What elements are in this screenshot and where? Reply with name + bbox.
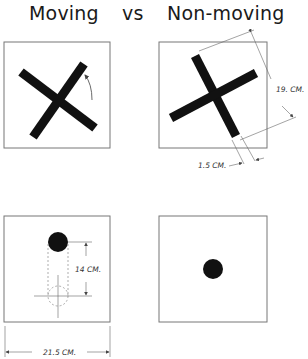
travel-label: 14 CM. (75, 265, 101, 274)
panel-moving-cross (4, 42, 110, 148)
arm-length-label: 19. CM. (276, 85, 304, 94)
dot-shape (48, 232, 68, 252)
panel-moving-dot: 14 CM. 21.5 CM. (4, 216, 110, 357)
cross-shape (171, 56, 256, 136)
rotation-arrow-icon (85, 75, 92, 100)
panel-non-moving-dot (159, 216, 267, 322)
cross-shape (21, 64, 95, 137)
square-width-label: 21.5 CM. (43, 348, 76, 357)
dot-shape (203, 259, 223, 279)
arm-width-label: 1.5 CM. (198, 161, 226, 170)
panel-non-moving-cross: 19. CM. 1.5 CM. (159, 30, 304, 170)
diagram-canvas: 19. CM. 1.5 CM. 14 CM. 21.5 CM. (0, 0, 308, 359)
